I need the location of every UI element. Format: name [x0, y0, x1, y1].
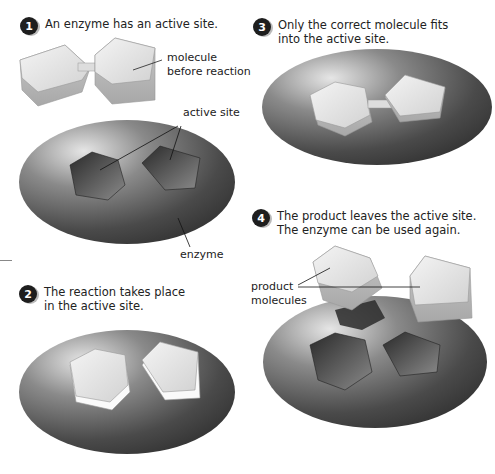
divider-line	[0, 260, 12, 261]
step-3-text: Only the correct molecule fits into the …	[278, 18, 448, 46]
step-3-header: 3 Only the correct molecule fits into th…	[253, 18, 448, 46]
step-2-badge: 2	[19, 285, 37, 303]
step-1-text: An enzyme has an active site.	[45, 17, 218, 31]
step-4-text: The product leaves the active site. The …	[277, 209, 476, 237]
enzyme-label: enzyme	[180, 248, 224, 262]
step-3-badge: 3	[253, 18, 271, 36]
enzyme-disc-3	[262, 49, 492, 165]
step-2-text: The reaction takes place in the active s…	[44, 285, 185, 313]
molecule-before-reaction-label: molecule before reaction	[167, 51, 251, 79]
active-site-label: active site	[183, 106, 240, 120]
product-molecules-label: product molecules	[251, 280, 307, 308]
molecule-before-reaction	[20, 38, 155, 106]
step-4-header: 4 The product leaves the active site. Th…	[252, 209, 476, 237]
enzyme-disc-2	[19, 330, 235, 454]
enzyme-disc-1	[19, 120, 235, 244]
step-1-badge: 1	[20, 17, 38, 35]
step-2-header: 2 The reaction takes place in the active…	[19, 285, 185, 313]
step-1-header: 1 An enzyme has an active site.	[20, 17, 218, 35]
step-4-badge: 4	[252, 209, 270, 227]
